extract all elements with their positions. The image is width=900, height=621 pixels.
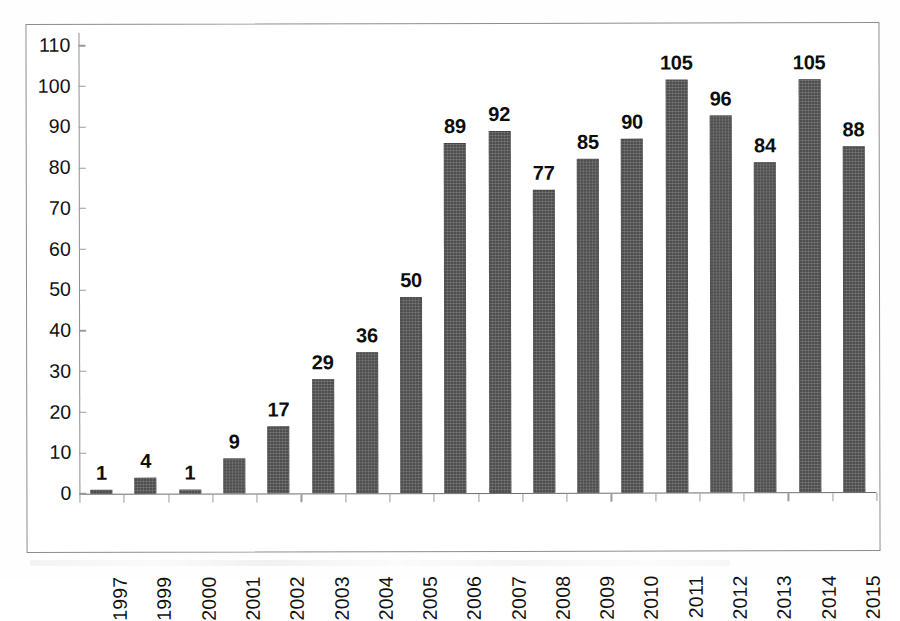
x-tick-mark xyxy=(79,495,80,503)
bar-column[interactable]: 1 xyxy=(78,35,123,494)
x-axis-label-2008: 2008 xyxy=(554,576,574,620)
x-axis-label-2007: 2007 xyxy=(509,576,529,620)
bar[interactable] xyxy=(135,478,157,494)
y-tick-label: 10 xyxy=(27,443,71,463)
bar-value-label: 90 xyxy=(610,112,654,132)
bar-column[interactable]: 84 xyxy=(743,33,788,492)
bar-column[interactable]: 105 xyxy=(787,33,832,492)
bar-column[interactable]: 50 xyxy=(388,34,433,493)
bar[interactable] xyxy=(710,115,733,492)
x-tick-mark xyxy=(788,493,789,501)
bar-value-label: 105 xyxy=(654,53,698,73)
x-tick-mark xyxy=(744,493,745,501)
x-tick-mark xyxy=(876,493,877,501)
scan-artifact-smudge xyxy=(30,560,730,566)
bar-column[interactable]: 105 xyxy=(654,33,699,492)
x-tick-mark xyxy=(345,494,346,502)
x-axis-label-1997: 1997 xyxy=(111,577,131,621)
bar[interactable] xyxy=(665,80,688,493)
bar-column[interactable]: 29 xyxy=(300,34,345,493)
bar[interactable] xyxy=(577,159,600,493)
bar[interactable] xyxy=(312,379,334,493)
y-tick-label: 70 xyxy=(27,199,71,219)
x-axis-ticks xyxy=(26,23,878,25)
y-axis-ticks: 0102030405060708090100110 xyxy=(26,23,878,25)
bar-column[interactable]: 17 xyxy=(256,34,301,493)
x-tick-mark xyxy=(212,495,213,503)
x-axis-labels: 1997199920002001200220032004200520062007… xyxy=(26,23,878,25)
bar[interactable] xyxy=(621,139,644,493)
bar[interactable] xyxy=(268,427,290,494)
y-tick-label: 40 xyxy=(27,321,71,341)
bar-column[interactable]: 96 xyxy=(698,33,743,492)
bar-value-label: 1 xyxy=(168,463,212,483)
bar-column[interactable]: 9 xyxy=(211,34,256,493)
bar[interactable] xyxy=(400,297,422,494)
plot-area: 1419172936508992778590105968410588 xyxy=(78,44,876,494)
x-axis-label-2006: 2006 xyxy=(465,576,485,620)
x-axis-label-2002: 2002 xyxy=(288,576,308,620)
x-tick-mark xyxy=(124,495,125,503)
x-tick-mark xyxy=(699,493,700,501)
bar[interactable] xyxy=(179,490,201,494)
bar-value-label: 4 xyxy=(124,451,168,471)
bar-column[interactable]: 4 xyxy=(123,35,168,494)
x-axis-label-2010: 2010 xyxy=(642,576,662,620)
bar[interactable] xyxy=(533,190,556,493)
bar-column[interactable]: 85 xyxy=(566,34,611,493)
bar-value-label: 9 xyxy=(212,431,256,451)
x-tick-mark xyxy=(257,494,258,502)
x-axis-label-2011: 2011 xyxy=(686,575,706,618)
bar-value-label: 96 xyxy=(698,88,742,108)
bar-value-label: 85 xyxy=(566,132,610,152)
bar-value-label: 17 xyxy=(256,400,300,420)
bar-value-label: 89 xyxy=(433,116,477,136)
bar-value-label: 84 xyxy=(743,135,787,155)
bar[interactable] xyxy=(798,80,821,493)
x-tick-mark xyxy=(478,494,479,502)
bar-column[interactable]: 90 xyxy=(610,34,655,493)
bar-column[interactable]: 88 xyxy=(831,33,876,492)
bar-column[interactable]: 36 xyxy=(344,34,389,493)
x-axis-label-2000: 2000 xyxy=(199,576,219,620)
bar-value-label: 77 xyxy=(522,163,566,183)
bar[interactable] xyxy=(754,162,777,492)
y-tick-label: 90 xyxy=(27,117,71,137)
bar-value-label: 88 xyxy=(831,119,875,139)
x-tick-mark xyxy=(611,494,612,502)
x-axis-label-1999: 1999 xyxy=(155,577,175,621)
x-tick-mark xyxy=(301,494,302,502)
bar-value-label: 36 xyxy=(345,325,389,345)
y-tick-label: 30 xyxy=(27,362,71,382)
y-tick-label: 100 xyxy=(27,77,71,97)
bar-value-label: 92 xyxy=(477,104,521,124)
bar[interactable] xyxy=(91,490,113,494)
x-axis-label-2012: 2012 xyxy=(731,575,751,619)
x-tick-mark xyxy=(434,494,435,502)
x-axis-label-2001: 2001 xyxy=(244,576,264,620)
bar-value-label: 29 xyxy=(301,352,345,372)
bar[interactable] xyxy=(444,143,467,493)
y-tick-label: 60 xyxy=(27,239,71,259)
bar-column[interactable]: 92 xyxy=(477,34,522,493)
x-axis-label-2003: 2003 xyxy=(332,576,352,620)
bar-value-label: 1 xyxy=(79,463,123,483)
bar[interactable] xyxy=(488,131,511,493)
bar-column[interactable]: 89 xyxy=(433,34,478,493)
x-tick-mark xyxy=(522,494,523,502)
y-tick-label: 50 xyxy=(27,280,71,300)
x-axis-label-2014: 2014 xyxy=(819,575,839,619)
bar[interactable] xyxy=(843,146,866,492)
bar-value-label: 50 xyxy=(389,270,433,290)
x-tick-mark xyxy=(832,493,833,501)
x-axis-label-2015: 2015 xyxy=(863,575,883,619)
bar-column[interactable]: 77 xyxy=(521,34,566,493)
y-tick-label: 80 xyxy=(27,158,71,178)
bar[interactable] xyxy=(356,352,378,494)
y-tick-label: 20 xyxy=(27,402,71,422)
y-tick-label: 110 xyxy=(26,36,70,56)
bar[interactable] xyxy=(223,458,245,493)
bar-column[interactable]: 1 xyxy=(167,35,212,494)
x-axis-label-2009: 2009 xyxy=(598,576,618,620)
